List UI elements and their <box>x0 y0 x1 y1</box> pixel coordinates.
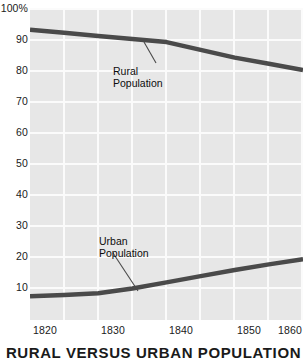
y-tick-label: 40 <box>16 188 28 200</box>
annotation-rural-population: Rural Population <box>113 66 163 89</box>
y-tick-label: 20 <box>16 250 28 262</box>
plot-area <box>30 8 303 320</box>
y-tick-label: 70 <box>16 95 28 107</box>
y-tick-label: 30 <box>16 219 28 231</box>
annotation-rural-line1: Rural <box>113 66 163 78</box>
y-tick-label: 100% <box>1 2 28 14</box>
y-tick-label: 10 <box>16 281 28 293</box>
x-tick-label: 1840 <box>169 324 193 336</box>
y-tick-label: 50 <box>16 157 28 169</box>
series-layer <box>30 8 303 320</box>
y-tick-label: 60 <box>16 126 28 138</box>
leader-line-rural <box>144 42 156 63</box>
y-tick-label: 80 <box>16 64 28 76</box>
x-tick-label: 1850 <box>237 324 261 336</box>
x-tick-label: 1860 <box>278 324 302 336</box>
annotation-rural-line2: Population <box>113 78 163 90</box>
y-tick-label: 90 <box>16 33 28 45</box>
x-tick-label: 1830 <box>101 324 125 336</box>
annotation-urban-line1: Urban <box>99 236 149 248</box>
series-line-rural <box>30 30 303 70</box>
annotation-urban-line2: Population <box>99 248 149 260</box>
y-axis-labels: 100% 90 80 70 60 50 40 30 20 10 <box>0 0 28 330</box>
series-line-urban <box>30 259 303 296</box>
x-tick-label: 1820 <box>33 324 57 336</box>
chart-title: RURAL VERSUS URBAN POPULATION <box>0 344 307 361</box>
annotation-urban-population: Urban Population <box>99 236 149 259</box>
x-axis-labels: 1820 1830 1840 1850 1860 <box>0 324 307 340</box>
